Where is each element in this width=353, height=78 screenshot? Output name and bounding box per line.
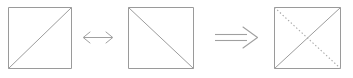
figure-canvas: A square containing a diagonal from bott… <box>0 0 353 78</box>
square-2-group <box>129 8 194 69</box>
left-right-arrow-icon <box>83 32 113 43</box>
square-3-group <box>275 8 341 69</box>
rightwards-double-arrow-icon <box>215 27 258 48</box>
arrow-2-head-upper <box>243 27 258 48</box>
figure-svg <box>0 0 353 78</box>
square-1-group <box>9 8 72 69</box>
